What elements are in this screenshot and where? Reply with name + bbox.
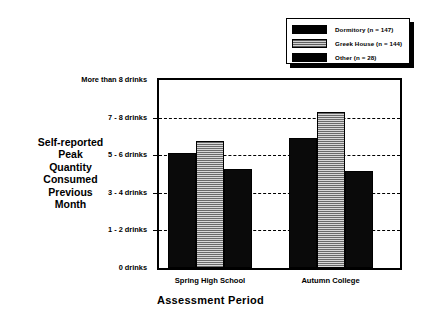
legend-item-other: Other (n = 28) bbox=[292, 51, 405, 64]
y-axis-title-line: Self-reported bbox=[8, 136, 133, 148]
y-tick-label: 7 - 8 drinks bbox=[27, 114, 147, 122]
bar-dormitory bbox=[168, 153, 196, 268]
legend-item-dormitory: Dormitory (n = 147) bbox=[292, 23, 405, 36]
chart-legend: Dormitory (n = 147) Greek House (n = 144… bbox=[286, 18, 410, 64]
y-axis-title-line: Month bbox=[8, 198, 133, 210]
legend-swatch-other bbox=[292, 53, 327, 62]
legend-swatch-dormitory bbox=[292, 25, 327, 34]
plot-area bbox=[157, 78, 402, 270]
bar-other bbox=[224, 169, 252, 268]
y-tick-label: 5 - 6 drinks bbox=[27, 151, 147, 159]
legend-label-dormitory: Dormitory (n = 147) bbox=[335, 25, 393, 34]
bar-dormitory bbox=[289, 138, 317, 268]
plot-inner bbox=[159, 80, 400, 268]
bar-other bbox=[345, 171, 373, 268]
legend-swatch-greek-house bbox=[292, 39, 327, 48]
bar-greek-house bbox=[196, 141, 224, 268]
x-tick-label: Spring High School bbox=[150, 276, 270, 285]
x-axis-title: Assessment Period bbox=[0, 294, 421, 306]
y-tick-label: 1 - 2 drinks bbox=[27, 226, 147, 234]
y-axis-title-line: Quantity bbox=[8, 161, 133, 173]
bar-chart: Dormitory (n = 147) Greek House (n = 144… bbox=[0, 0, 421, 316]
legend-label-greek-house: Greek House (n = 144) bbox=[335, 39, 402, 48]
y-tick-label: 0 drinks bbox=[27, 264, 147, 272]
y-axis-title: Self-reported Peak Quantity Consumed Pre… bbox=[8, 136, 133, 210]
x-tick-label: Autumn College bbox=[271, 276, 391, 285]
legend-item-greek-house: Greek House (n = 144) bbox=[292, 37, 405, 50]
y-axis-title-line: Consumed bbox=[8, 173, 133, 185]
gridline bbox=[159, 118, 400, 119]
y-tick-label: 3 - 4 drinks bbox=[27, 189, 147, 197]
legend-label-other: Other (n = 28) bbox=[335, 53, 376, 62]
bar-greek-house bbox=[317, 112, 345, 268]
y-tick-label: More than 8 drinks bbox=[27, 76, 147, 84]
